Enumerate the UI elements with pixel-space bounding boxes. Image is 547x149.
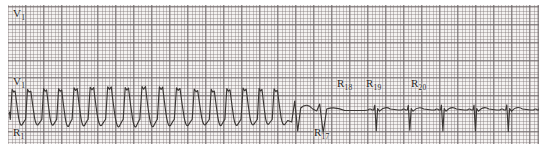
beat-annotation-r19: R19 bbox=[366, 78, 381, 92]
ecg-strip-bottom bbox=[8, 73, 539, 144]
lead-label-top: V1 bbox=[13, 8, 25, 22]
beat-annotation-r17: R17 bbox=[314, 127, 329, 141]
beat-annotation-r18-text: R bbox=[337, 77, 345, 89]
ecg-figure: V1 V1 R1 R17 R18 R19 R20 bbox=[0, 0, 547, 149]
beat-annotation-r17-sub: 17 bbox=[322, 132, 330, 141]
beat-annotation-r17-text: R bbox=[314, 126, 322, 138]
lead-label-bottom-sub: 1 bbox=[21, 81, 25, 90]
beat-annotation-r18: R18 bbox=[337, 78, 352, 92]
beat-annotation-r19-text: R bbox=[366, 77, 374, 89]
beat-annotation-r20-text: R bbox=[411, 77, 419, 89]
ecg-strip-top bbox=[8, 5, 539, 73]
beat-annotation-r1-sub: 1 bbox=[21, 132, 25, 141]
beat-annotation-r1: R1 bbox=[13, 127, 25, 141]
beat-annotation-r20-sub: 20 bbox=[419, 83, 427, 92]
ecg-trace-top bbox=[8, 5, 539, 73]
beat-annotation-r18-sub: 18 bbox=[345, 83, 353, 92]
beat-annotation-r1-text: R bbox=[13, 126, 21, 138]
lead-label-top-sub: 1 bbox=[21, 13, 25, 22]
lead-label-bottom-text: V bbox=[13, 75, 21, 87]
beat-annotation-r19-sub: 19 bbox=[374, 83, 382, 92]
beat-annotation-r20: R20 bbox=[411, 78, 426, 92]
lead-label-top-text: V bbox=[13, 7, 21, 19]
lead-label-bottom: V1 bbox=[13, 76, 25, 90]
ecg-trace-bottom bbox=[8, 73, 539, 144]
